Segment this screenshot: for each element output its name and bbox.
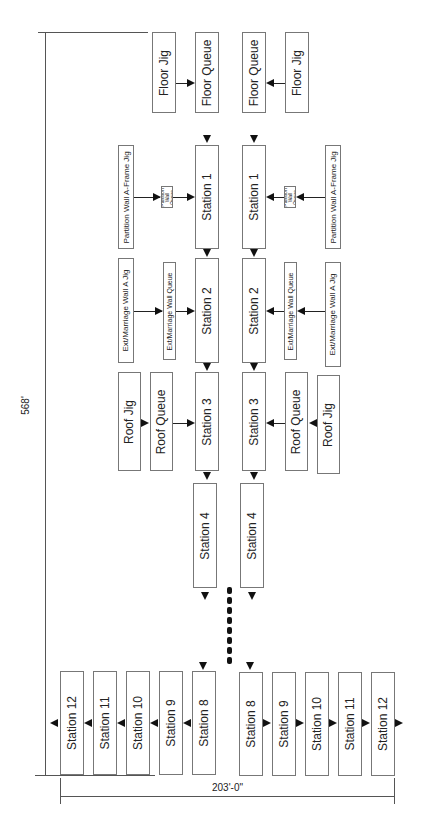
arrow-down-icon: [203, 249, 211, 257]
arrow-down-icon: [203, 135, 211, 143]
arrow-right-icon: [362, 719, 370, 727]
station-11-left: Station 11: [93, 671, 117, 775]
width-dimension-tick-left: [60, 778, 61, 804]
station-4-right: Station 4: [240, 483, 264, 588]
arrow-right-icon: [187, 419, 195, 427]
partition-jig-left: Partition Wall A-Frame Jig: [118, 145, 134, 249]
arrow-left-icon: [296, 193, 304, 201]
partition-queue-right: Partition Wall Queue: [284, 186, 296, 208]
width-dimension-line: [60, 796, 395, 797]
arrow-left-icon: [183, 719, 191, 727]
station-3-right: Station 3: [242, 372, 266, 471]
station-12-left: Station 12: [60, 671, 84, 775]
ext-marriage-jig-left: Ext/Marriage Wall A Jig: [118, 258, 134, 363]
arrow-right-icon: [263, 719, 271, 727]
arrow-right-icon: [187, 307, 195, 315]
partition-queue-left: Partition Wall Queue: [161, 186, 173, 208]
arrow-down-icon: [250, 249, 258, 257]
arrow-down-icon: [203, 363, 211, 371]
arrow-right-icon: [187, 193, 195, 201]
arrow-down-icon: [248, 592, 256, 600]
length-dimension-line: [45, 32, 46, 776]
arrow-down-icon: [199, 662, 207, 670]
arrow-right-icon: [296, 719, 304, 727]
station-3-left: Station 3: [195, 372, 219, 471]
length-dimension-tick-top: [38, 32, 148, 33]
station-9-right: Station 9: [272, 672, 296, 776]
floor-jig-right: Floor Jig: [285, 32, 309, 113]
station-1-left: Station 1: [195, 145, 219, 249]
station-2-right: Station 2: [242, 258, 266, 363]
arrow-down-icon: [250, 363, 258, 371]
station-1-right: Station 1: [242, 145, 266, 249]
ext-marriage-jig-right: Ext/Marriage Wall A Jig: [325, 262, 341, 367]
floor-queue-left: Floor Queue: [195, 32, 219, 113]
arrow-down-icon: [201, 592, 209, 600]
arrow-down-icon: [250, 472, 258, 480]
arrow-down-icon: [250, 135, 258, 143]
arrow-left-icon: [150, 719, 158, 727]
arrow-right-icon: [187, 79, 195, 87]
arrow-left-icon: [266, 193, 274, 201]
arrow-left-icon: [50, 719, 58, 727]
arrow-left-icon: [117, 719, 125, 727]
arrow-left-icon: [266, 419, 274, 427]
arrow-right-icon: [329, 719, 337, 727]
arrow-right-icon: [155, 307, 163, 315]
roof-jig-left: Roof Jig: [118, 372, 141, 471]
arrow-down-icon: [203, 472, 211, 480]
roof-queue-right: Roof Queue: [285, 372, 308, 471]
arrow-left-icon: [266, 79, 274, 87]
station-8-right: Station 8: [239, 672, 263, 776]
arrow-right-icon: [395, 719, 403, 727]
partition-jig-right: Partition Wall A-Frame Jig: [325, 145, 341, 249]
arrow-right-icon: [141, 419, 149, 427]
station-10-right: Station 10: [305, 672, 329, 776]
floor-jig-left: Floor Jig: [152, 32, 176, 113]
floor-queue-right: Floor Queue: [242, 32, 266, 113]
roof-queue-left: Roof Queue: [150, 372, 173, 471]
ext-marriage-queue-left: Ext/Marriage Wall Queue: [163, 262, 176, 360]
arrow-line: [302, 197, 326, 198]
station-4-left: Station 4: [193, 483, 217, 588]
width-dimension-tick-right: [394, 778, 395, 804]
arrow-left-icon: [309, 419, 317, 427]
width-dimension-label: 203'-0": [212, 782, 243, 793]
ext-marriage-queue-right: Ext/Marriage Wall Queue: [284, 262, 297, 360]
arrow-left-icon: [297, 307, 305, 315]
station-10-left: Station 10: [126, 671, 150, 775]
roof-jig-right: Roof Jig: [317, 375, 340, 474]
station-11-right: Station 11: [338, 672, 362, 776]
length-dimension-tick-bottom: [35, 775, 155, 776]
station-8-left: Station 8: [192, 671, 216, 775]
length-dimension-label: 568': [20, 396, 31, 415]
arrow-left-icon: [84, 719, 92, 727]
station-9-left: Station 9: [159, 671, 183, 775]
arrow-right-icon: [153, 193, 161, 201]
arrow-line: [303, 311, 326, 312]
station-2-left: Station 2: [195, 258, 219, 363]
arrow-down-icon: [246, 662, 254, 670]
station-12-right: Station 12: [371, 672, 395, 776]
arrow-left-icon: [266, 307, 274, 315]
